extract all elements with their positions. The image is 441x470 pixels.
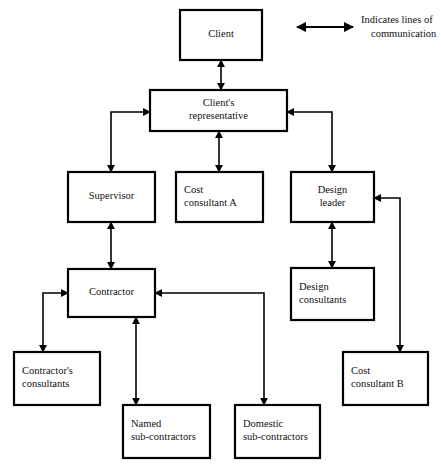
node-label-design-consultants: consultants — [299, 294, 346, 305]
legend-label-line2: communication — [371, 28, 437, 39]
node-label-cost-consultant-a: Cost — [184, 184, 203, 195]
node-supervisor[interactable]: Supervisor — [68, 172, 155, 222]
node-label-design-leader: leader — [320, 197, 346, 208]
node-contractors-consultants[interactable]: Contractor'sconsultants — [14, 352, 100, 405]
node-cost-consultant-b[interactable]: Costconsultant B — [343, 352, 428, 405]
node-label-contractors-consultants: Contractor's — [22, 365, 73, 376]
legend-label-line1: Indicates lines of — [361, 14, 433, 25]
connector-clients-representative-to-design-leader — [287, 112, 332, 172]
node-label-clients-representative: Client's — [203, 97, 235, 108]
node-label-design-leader: Design — [318, 184, 348, 195]
node-label-cost-consultant-b: consultant B — [351, 378, 404, 389]
node-label-supervisor: Supervisor — [89, 190, 135, 201]
organisation-chart-diagram: ClientClient'srepresentativeSupervisorCo… — [0, 0, 441, 470]
node-domestic-sub-contractors[interactable]: Domesticsub-contractors — [235, 405, 320, 458]
node-label-client: Client — [208, 28, 234, 39]
connector-clients-representative-to-supervisor — [111, 112, 150, 172]
node-client[interactable]: Client — [180, 10, 262, 60]
node-label-cost-consultant-b: Cost — [351, 365, 370, 376]
node-label-contractor: Contractor — [89, 286, 134, 297]
node-label-named-sub-contractors: Named — [131, 418, 162, 429]
node-label-domestic-sub-contractors: sub-contractors — [243, 431, 308, 442]
diagram-canvas: ClientClient'srepresentativeSupervisorCo… — [0, 0, 441, 470]
node-design-consultants[interactable]: Designconsultants — [291, 268, 374, 320]
legend: Indicates lines of communication — [297, 14, 437, 39]
node-cost-consultant-a[interactable]: Costconsultant A — [176, 172, 263, 222]
connector-contractor-to-contractors-consultants — [43, 293, 68, 352]
node-named-sub-contractors[interactable]: Namedsub-contractors — [123, 405, 210, 458]
connector-contractor-to-domestic-sub-contractors — [155, 293, 264, 405]
node-label-domestic-sub-contractors: Domestic — [243, 418, 284, 429]
node-label-cost-consultant-a: consultant A — [184, 197, 237, 208]
node-label-clients-representative: representative — [189, 110, 248, 121]
node-design-leader[interactable]: Designleader — [291, 172, 374, 222]
node-clients-representative[interactable]: Client'srepresentative — [150, 90, 287, 131]
node-label-design-consultants: Design — [299, 281, 329, 292]
connector-cost-consultant-b-to-design-leader — [374, 198, 400, 352]
node-label-contractors-consultants: consultants — [22, 378, 69, 389]
node-label-named-sub-contractors: sub-contractors — [131, 431, 196, 442]
node-contractor[interactable]: Contractor — [68, 269, 155, 317]
